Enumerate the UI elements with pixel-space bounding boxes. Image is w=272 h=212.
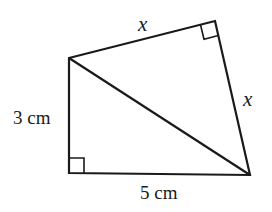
diagonal-line: [69, 58, 250, 175]
right-angle-marker-bottom-left: [69, 158, 84, 173]
label-right-side: x: [242, 87, 253, 111]
label-bottom-side: 5 cm: [140, 182, 178, 203]
geometry-diagram: x x 3 cm 5 cm: [0, 0, 272, 212]
quadrilateral-outline: [69, 21, 250, 175]
label-left-side: 3 cm: [13, 107, 51, 128]
label-top-side: x: [137, 12, 148, 36]
